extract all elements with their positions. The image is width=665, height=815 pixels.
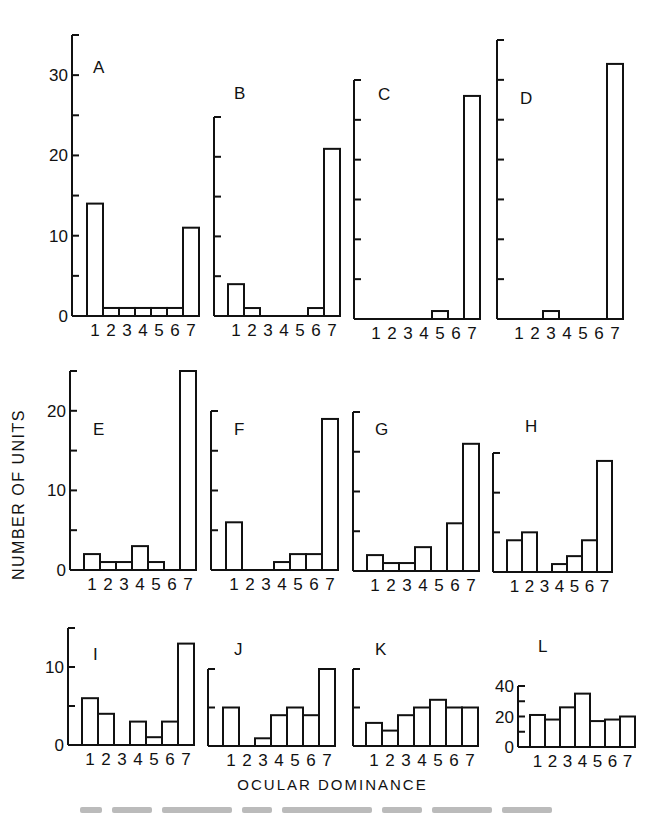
histogram-bar bbox=[287, 708, 303, 747]
x-category-label: 2 bbox=[247, 321, 256, 340]
panel-label: K bbox=[375, 640, 387, 659]
x-category-label: 2 bbox=[385, 751, 394, 770]
x-category-label: 4 bbox=[419, 324, 428, 343]
x-category-label: 5 bbox=[149, 750, 158, 769]
x-category-label: 3 bbox=[117, 750, 126, 769]
x-category-label: 1 bbox=[371, 324, 380, 343]
x-category-label: 1 bbox=[510, 577, 519, 596]
x-category-label: 5 bbox=[154, 321, 163, 340]
x-category-label: 3 bbox=[258, 751, 267, 770]
panel-g: 1234567G bbox=[353, 412, 479, 595]
histogram-bar bbox=[167, 308, 183, 316]
x-category-label: 4 bbox=[562, 324, 571, 343]
y-tick-label: 20 bbox=[49, 146, 68, 165]
x-category-label: 5 bbox=[434, 576, 443, 595]
x-category-label: 7 bbox=[610, 324, 619, 343]
histogram-bar bbox=[582, 540, 597, 572]
panel-label: A bbox=[93, 58, 105, 77]
histogram-bar bbox=[119, 308, 135, 316]
histogram-bar bbox=[308, 308, 324, 316]
panel-label: F bbox=[234, 420, 244, 439]
panel-a: 01020301234567A bbox=[49, 35, 199, 340]
x-category-label: 6 bbox=[309, 575, 318, 594]
x-category-label: 1 bbox=[369, 751, 378, 770]
histogram-bar bbox=[430, 700, 446, 746]
x-category-label: 7 bbox=[325, 575, 334, 594]
x-axis-label: OCULAR DOMINANCE bbox=[0, 776, 665, 793]
histogram-bar bbox=[507, 540, 522, 572]
x-category-label: 5 bbox=[151, 575, 160, 594]
x-category-label: 7 bbox=[623, 752, 632, 771]
x-category-label: 1 bbox=[85, 750, 94, 769]
x-category-label: 4 bbox=[277, 575, 286, 594]
panel-label: G bbox=[375, 420, 388, 439]
histogram-bar bbox=[560, 707, 575, 747]
histogram-bar bbox=[148, 562, 164, 570]
panel-h: 1234567H bbox=[493, 417, 612, 596]
histogram-bar bbox=[82, 698, 98, 745]
x-category-label: 4 bbox=[555, 577, 564, 596]
x-category-label: 2 bbox=[548, 752, 557, 771]
histogram-bar bbox=[462, 708, 478, 747]
x-category-label: 6 bbox=[608, 752, 617, 771]
panel-k: 1234567K bbox=[353, 640, 478, 770]
x-category-label: 7 bbox=[600, 577, 609, 596]
x-category-label: 1 bbox=[514, 324, 523, 343]
y-axis-label: NUMBER OF UNITS bbox=[10, 409, 28, 580]
y-tick-label: 0 bbox=[57, 561, 66, 580]
x-category-label: 3 bbox=[402, 576, 411, 595]
histogram-bar bbox=[255, 738, 271, 746]
x-category-label: 1 bbox=[229, 575, 238, 594]
x-category-label: 6 bbox=[594, 324, 603, 343]
x-category-label: 4 bbox=[138, 321, 147, 340]
x-category-label: 6 bbox=[311, 321, 320, 340]
x-category-label: 6 bbox=[450, 576, 459, 595]
y-tick-label: 20 bbox=[495, 708, 514, 727]
histogram-bar bbox=[432, 311, 448, 319]
x-category-label: 5 bbox=[295, 321, 304, 340]
x-category-label: 5 bbox=[578, 324, 587, 343]
histogram-bar bbox=[383, 563, 399, 571]
panel-j: 1234567J bbox=[208, 640, 335, 770]
x-category-label: 3 bbox=[119, 575, 128, 594]
x-category-label: 3 bbox=[122, 321, 131, 340]
histogram-bar bbox=[522, 532, 537, 572]
y-tick-label: 10 bbox=[49, 227, 68, 246]
histogram-bar bbox=[447, 523, 463, 571]
histogram-bar bbox=[271, 715, 287, 746]
x-category-label: 4 bbox=[274, 751, 283, 770]
x-category-label: 6 bbox=[449, 751, 458, 770]
histogram-bar bbox=[463, 444, 479, 571]
panel-c: 1234567C bbox=[354, 80, 480, 343]
x-category-label: 7 bbox=[181, 750, 190, 769]
histogram-bar bbox=[605, 720, 620, 747]
histogram-bar bbox=[178, 644, 194, 745]
histogram-bar bbox=[274, 562, 290, 570]
x-category-label: 3 bbox=[546, 324, 555, 343]
panel-i: 0101234567I bbox=[45, 628, 194, 769]
figure-caption-cropped bbox=[80, 803, 640, 815]
histogram-bar bbox=[545, 720, 560, 747]
x-category-label: 7 bbox=[183, 575, 192, 594]
histogram-bar bbox=[319, 669, 335, 746]
x-category-label: 2 bbox=[103, 575, 112, 594]
histogram-bar bbox=[151, 308, 167, 316]
histogram-bar bbox=[130, 722, 146, 745]
x-category-label: 4 bbox=[135, 575, 144, 594]
histogram-bar bbox=[530, 715, 545, 747]
x-category-label: 3 bbox=[540, 577, 549, 596]
x-category-label: 7 bbox=[327, 321, 336, 340]
histogram-bar bbox=[87, 204, 103, 316]
x-category-label: 5 bbox=[570, 577, 579, 596]
x-category-label: 7 bbox=[467, 324, 476, 343]
histogram-bar bbox=[303, 715, 319, 746]
x-category-label: 1 bbox=[231, 321, 240, 340]
histogram-bar bbox=[135, 308, 151, 316]
x-category-label: 5 bbox=[290, 751, 299, 770]
x-category-label: 7 bbox=[465, 751, 474, 770]
x-category-label: 2 bbox=[106, 321, 115, 340]
histogram-bar bbox=[103, 308, 119, 316]
x-category-label: 2 bbox=[387, 324, 396, 343]
histogram-bar bbox=[324, 149, 340, 316]
histogram-bar bbox=[116, 562, 132, 570]
